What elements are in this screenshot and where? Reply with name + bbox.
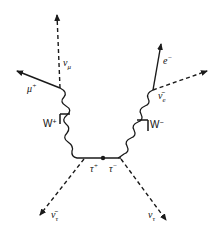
anti-nu-e-line <box>153 71 207 90</box>
label-anti-nu-tau: ν̄τ <box>51 209 58 223</box>
nu-tau-line <box>121 159 166 220</box>
tau-vertex-dot <box>101 156 105 160</box>
label-tau-plus: τ+ <box>90 162 99 174</box>
label-nu-mu: νμ <box>63 57 71 71</box>
nu-mu-line <box>57 15 60 88</box>
label-mu-plus: μ+ <box>26 82 37 94</box>
label-nu-tau: ντ <box>148 209 155 223</box>
label-electron: e− <box>163 54 172 66</box>
electron-line <box>153 44 161 90</box>
w-plus-propagator <box>60 88 82 158</box>
diagram-canvas: μ+ νμ e− ν̄e W+ W− τ+ τ− ν̄τ ντ <box>0 0 221 232</box>
label-tau-minus: τ− <box>109 162 118 174</box>
label-w-plus: W+ <box>43 118 57 129</box>
anti-nu-tau-line <box>40 159 84 215</box>
mu-plus-line <box>17 71 60 88</box>
feynman-diagram: μ+ νμ e− ν̄e W+ W− τ+ τ− ν̄τ ντ <box>0 0 221 232</box>
label-anti-nu-e: ν̄e <box>158 90 166 104</box>
label-w-minus: W− <box>150 119 164 130</box>
